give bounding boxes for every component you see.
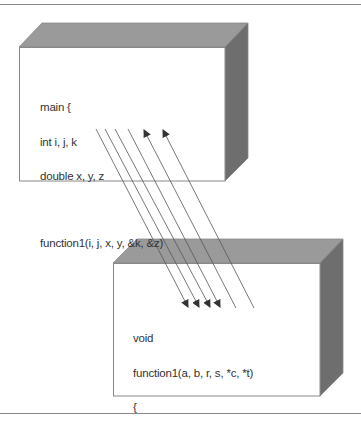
caller-line-2: int i, j, k [40, 137, 163, 149]
caller-line-4 [40, 206, 163, 215]
callee-line-1: void [133, 333, 253, 345]
callee-line-2: function1(a, b, r, s, *c, *t) [133, 368, 253, 380]
caller-box-top-face [19, 23, 248, 47]
caller-line-5: function1(i, j, x, y, &k, &z) [40, 238, 163, 250]
caller-box-side-face [225, 23, 248, 181]
caller-line-3: double x, y, z [40, 171, 163, 183]
caller-code: main { int i, j, k double x, y, z functi… [40, 79, 163, 261]
callee-code: void function1(a, b, r, s, *c, *t) { *c=… [133, 310, 253, 421]
callee-line-3: { [133, 402, 253, 414]
callee-box-side-face [320, 239, 343, 396]
caller-line-1: main { [40, 102, 163, 114]
